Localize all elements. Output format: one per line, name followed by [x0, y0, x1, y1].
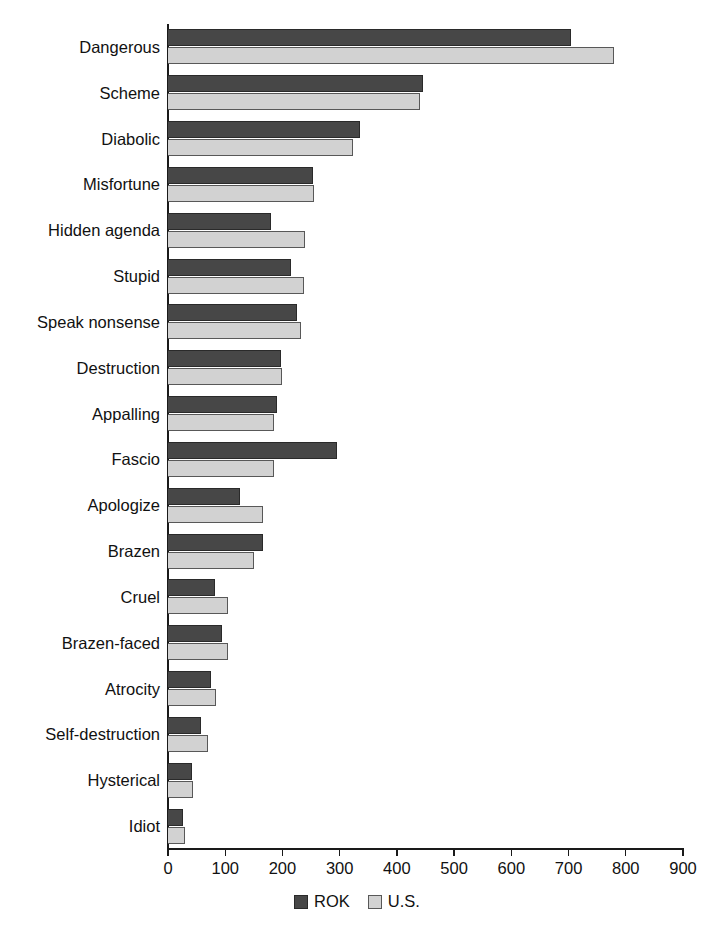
- category-label: Cruel: [121, 588, 160, 606]
- category-label: Fascio: [111, 450, 160, 468]
- category-label: Brazen-faced: [62, 634, 160, 652]
- bar-us: [168, 231, 305, 248]
- bar-rok: [168, 304, 297, 321]
- category-label: Idiot: [129, 817, 160, 835]
- x-tick-mark: [453, 849, 454, 856]
- bar-rok: [168, 625, 222, 642]
- bar-rok: [168, 350, 281, 367]
- x-tick-label: 200: [269, 858, 297, 878]
- bar-rok: [168, 809, 183, 826]
- bar-rok: [168, 167, 313, 184]
- x-tick-mark: [225, 849, 226, 856]
- bar-us: [168, 368, 282, 385]
- bar-us: [168, 185, 314, 202]
- category-label: Apologize: [88, 496, 160, 514]
- category-label: Diabolic: [101, 130, 160, 148]
- bar-us: [168, 322, 301, 339]
- bar-rok: [168, 396, 277, 413]
- category-label: Misfortune: [83, 175, 160, 193]
- x-tick-mark: [339, 849, 340, 856]
- bar-us: [168, 414, 274, 431]
- bar-us: [168, 47, 614, 64]
- bar-rok: [168, 717, 201, 734]
- x-axis-line: [167, 848, 684, 850]
- bar-us: [168, 277, 304, 294]
- x-tick-mark: [568, 849, 569, 856]
- legend-label: U.S.: [388, 892, 420, 911]
- category-label: Hidden agenda: [48, 221, 160, 239]
- legend-swatch-us: [368, 895, 382, 909]
- category-label: Speak nonsense: [37, 313, 160, 331]
- bar-rok: [168, 121, 360, 138]
- bar-rok: [168, 579, 215, 596]
- bar-rok: [168, 671, 211, 688]
- x-tick-label: 400: [383, 858, 411, 878]
- bar-us: [168, 597, 228, 614]
- category-label: Appalling: [92, 405, 160, 423]
- legend-swatch-rok: [294, 895, 308, 909]
- x-tick-mark: [396, 849, 397, 856]
- legend-item: U.S.: [368, 892, 420, 911]
- bar-us: [168, 506, 263, 523]
- bar-us: [168, 93, 420, 110]
- category-label: Brazen: [108, 542, 160, 560]
- bar-rok: [168, 442, 337, 459]
- x-tick-label: 900: [669, 858, 697, 878]
- bar-us: [168, 552, 254, 569]
- bar-us: [168, 460, 274, 477]
- bar-rok: [168, 488, 240, 505]
- bar-us: [168, 735, 208, 752]
- x-tick-mark: [282, 849, 283, 856]
- chart-legend: ROKU.S.: [0, 892, 714, 911]
- x-tick-label: 0: [163, 858, 172, 878]
- x-tick-mark: [167, 849, 168, 856]
- bar-rok: [168, 213, 271, 230]
- category-label: Hysterical: [88, 771, 160, 789]
- bar-us: [168, 827, 185, 844]
- bar-us: [168, 643, 228, 660]
- legend-label: ROK: [314, 892, 350, 911]
- x-tick-mark: [625, 849, 626, 856]
- category-label: Destruction: [77, 359, 160, 377]
- bar-chart: 0100200300400500600700800900 DangerousSc…: [0, 0, 714, 939]
- category-label: Scheme: [99, 84, 160, 102]
- x-tick-mark: [682, 849, 683, 856]
- bar-rok: [168, 259, 291, 276]
- bar-rok: [168, 75, 423, 92]
- x-tick-label: 700: [555, 858, 583, 878]
- bar-rok: [168, 29, 571, 46]
- x-tick-label: 300: [326, 858, 354, 878]
- category-label: Stupid: [113, 267, 160, 285]
- x-tick-label: 500: [440, 858, 468, 878]
- x-tick-label: 600: [498, 858, 526, 878]
- category-label: Dangerous: [79, 38, 160, 56]
- x-tick-label: 100: [211, 858, 239, 878]
- bar-rok: [168, 534, 263, 551]
- bar-us: [168, 781, 193, 798]
- x-tick-mark: [511, 849, 512, 856]
- category-label: Self-destruction: [45, 725, 160, 743]
- bar-rok: [168, 763, 192, 780]
- bar-us: [168, 689, 216, 706]
- x-tick-label: 800: [612, 858, 640, 878]
- bar-us: [168, 139, 353, 156]
- legend-item: ROK: [294, 892, 350, 911]
- category-label: Atrocity: [105, 680, 160, 698]
